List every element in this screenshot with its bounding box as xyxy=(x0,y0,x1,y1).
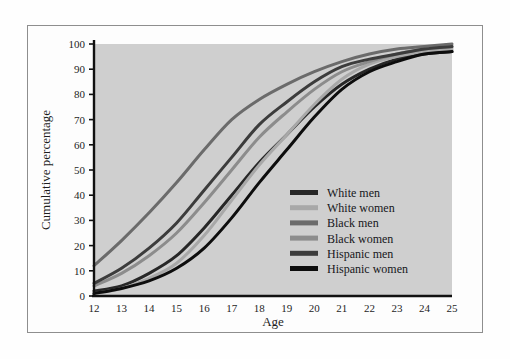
y-axis-tick-label: 80 xyxy=(74,88,86,100)
y-axis-tick-label: 60 xyxy=(74,139,86,151)
legend-label: Hispanic men xyxy=(327,247,393,261)
figure-container: 0102030405060708090100 12131415161718192… xyxy=(0,0,510,359)
legend-label: White women xyxy=(327,201,395,215)
legend-label: Black men xyxy=(327,216,379,230)
legend-swatch xyxy=(290,205,318,210)
chart-canvas: 0102030405060708090100 12131415161718192… xyxy=(28,26,481,331)
legend-swatch xyxy=(290,266,318,271)
y-axis-tick-label: 90 xyxy=(74,63,86,75)
y-axis-tick-label: 50 xyxy=(74,164,86,176)
x-axis-title: Age xyxy=(262,314,284,329)
x-axis-tick-label: 19 xyxy=(281,302,293,314)
legend-swatch xyxy=(290,251,318,256)
y-axis-tick-label: 100 xyxy=(69,38,86,50)
x-axis-tick-label: 16 xyxy=(199,302,211,314)
figure-frame: 0102030405060708090100 12131415161718192… xyxy=(27,25,483,333)
legend-label: White men xyxy=(327,186,380,200)
x-axis-tick-label: 21 xyxy=(336,302,347,314)
x-axis-tick-label: 12 xyxy=(89,302,100,314)
x-axis-tick-label: 22 xyxy=(364,302,375,314)
legend-label: Black women xyxy=(327,232,393,246)
y-axis-tick-label: 10 xyxy=(74,265,86,277)
x-axis-tick-label: 25 xyxy=(447,302,459,314)
legend-swatch xyxy=(290,220,318,225)
x-axis-ticks: 1213141516171819202122232425 xyxy=(89,302,459,314)
x-axis-tick-label: 18 xyxy=(254,302,266,314)
y-axis-tick-label: 70 xyxy=(74,114,86,126)
x-axis-tick-label: 24 xyxy=(419,302,431,314)
x-axis-tick-label: 17 xyxy=(226,302,238,314)
y-axis-tick-label: 30 xyxy=(74,214,86,226)
legend-label: Hispanic women xyxy=(327,262,408,276)
x-axis-tick-label: 20 xyxy=(309,302,321,314)
x-axis-tick-label: 15 xyxy=(171,302,183,314)
y-axis-ticks: 0102030405060708090100 xyxy=(69,38,95,302)
x-axis-tick-label: 14 xyxy=(144,302,156,314)
y-axis-title: Cumulative percentage xyxy=(38,110,53,230)
x-axis-tick-label: 23 xyxy=(391,302,403,314)
y-axis-tick-label: 40 xyxy=(74,189,86,201)
legend-swatch xyxy=(290,190,318,195)
y-axis-tick-label: 0 xyxy=(80,290,86,302)
y-axis-tick-label: 20 xyxy=(74,240,86,252)
legend-swatch xyxy=(290,236,318,241)
x-axis-tick-label: 13 xyxy=(116,302,128,314)
